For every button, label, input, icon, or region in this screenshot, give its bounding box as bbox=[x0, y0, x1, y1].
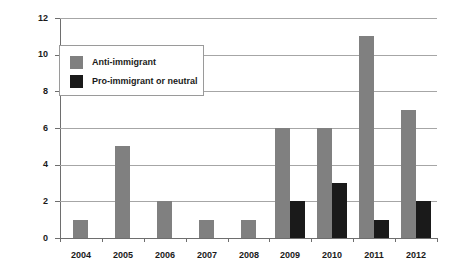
bar-pro-immigrant-or-neutral-2012 bbox=[416, 201, 431, 238]
y-axis-tick-label: 10 bbox=[20, 50, 48, 59]
x-axis-tick bbox=[144, 238, 145, 242]
x-axis-tick bbox=[186, 238, 187, 242]
x-axis-tick bbox=[437, 238, 438, 242]
bar-anti-immigrant-2008 bbox=[241, 220, 256, 238]
y-axis-tick-label: 6 bbox=[20, 124, 48, 133]
bar-chart: 024681012 200420052006200720082009201020… bbox=[0, 0, 453, 277]
x-axis-tick bbox=[60, 238, 61, 242]
chart-legend: Anti-immigrant Pro-immigrant or neutral bbox=[59, 45, 204, 96]
y-axis-tick-label: 12 bbox=[20, 14, 48, 23]
x-axis-tick-label: 2009 bbox=[269, 250, 311, 260]
legend-label-anti-immigrant: Anti-immigrant bbox=[92, 57, 156, 67]
x-axis-tick bbox=[353, 238, 354, 242]
y-axis-tick-label: 0 bbox=[20, 234, 48, 243]
x-axis-tick bbox=[311, 238, 312, 242]
legend-swatch-icon-anti-immigrant bbox=[70, 56, 83, 69]
y-axis-tick-label: 2 bbox=[20, 197, 48, 206]
bar-pro-immigrant-or-neutral-2010 bbox=[332, 183, 347, 238]
bar-anti-immigrant-2004 bbox=[73, 220, 88, 238]
x-axis-tick-label: 2011 bbox=[353, 250, 395, 260]
x-axis-tick-label: 2005 bbox=[102, 250, 144, 260]
x-axis-tick-label: 2007 bbox=[186, 250, 228, 260]
bar-anti-immigrant-2005 bbox=[115, 146, 130, 238]
bar-anti-immigrant-2010 bbox=[317, 128, 332, 238]
bar-anti-immigrant-2012 bbox=[401, 110, 416, 238]
y-axis-tick-label: 4 bbox=[20, 160, 48, 169]
x-axis-tick-label: 2008 bbox=[228, 250, 270, 260]
legend-item-anti-immigrant: Anti-immigrant bbox=[70, 55, 156, 69]
legend-label-pro-immigrant-or-neutral: Pro-immigrant or neutral bbox=[92, 76, 198, 86]
legend-swatch-icon-pro-immigrant-or-neutral bbox=[70, 75, 83, 88]
bar-anti-immigrant-2006 bbox=[157, 201, 172, 238]
bar-anti-immigrant-2011 bbox=[359, 36, 374, 238]
x-axis-tick-label: 2004 bbox=[60, 250, 102, 260]
x-axis-tick-label: 2006 bbox=[144, 250, 186, 260]
x-axis-line bbox=[60, 238, 438, 239]
legend-item-pro-immigrant-or-neutral: Pro-immigrant or neutral bbox=[70, 74, 198, 88]
bar-pro-immigrant-or-neutral-2009 bbox=[290, 201, 305, 238]
y-axis-tick-label: 8 bbox=[20, 87, 48, 96]
x-axis-tick-label: 2012 bbox=[395, 250, 437, 260]
bar-pro-immigrant-or-neutral-2011 bbox=[374, 220, 389, 238]
bar-anti-immigrant-2009 bbox=[275, 128, 290, 238]
x-axis-tick bbox=[102, 238, 103, 242]
x-axis-tick bbox=[395, 238, 396, 242]
x-axis-tick bbox=[269, 238, 270, 242]
x-axis-tick bbox=[228, 238, 229, 242]
bar-anti-immigrant-2007 bbox=[199, 220, 214, 238]
x-axis-tick-label: 2010 bbox=[311, 250, 353, 260]
